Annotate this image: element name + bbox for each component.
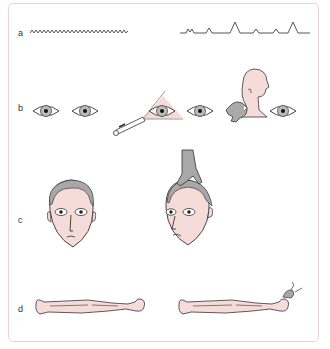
hand-icon: [226, 102, 247, 122]
supine-body: [36, 299, 145, 314]
neck-pinch-test: [226, 69, 296, 122]
oxygen-tube-icon: [283, 282, 302, 298]
flat-eeg-trace: [180, 22, 310, 33]
penlight-test: [114, 91, 214, 136]
eeg-activity-trace: [30, 30, 128, 33]
face-frontal: [47, 180, 95, 247]
pupils-pair: [33, 106, 98, 117]
illustration: [0, 0, 330, 349]
supine-body-apnea: [179, 282, 302, 314]
face-turned: [166, 150, 213, 245]
penlight-icon: [114, 117, 146, 136]
